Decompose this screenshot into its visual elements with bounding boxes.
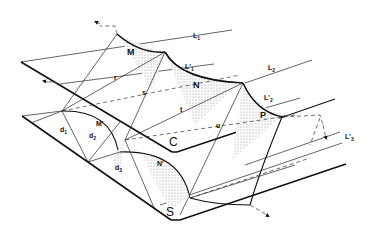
label-L1: L1 (193, 32, 200, 41)
diagram-canvas: M N P M' N' L1 L'1 L2 L'2 L'3 r s t u d1… (0, 0, 378, 239)
shade-P (232, 83, 282, 160)
dash-right (283, 115, 323, 125)
line-right-edge (283, 99, 335, 117)
label-L2: L2 (268, 64, 275, 73)
label-L2-prime: L'2 (264, 94, 273, 103)
line-L2 (245, 60, 312, 83)
label-u: u (216, 122, 220, 129)
label-C: C (169, 135, 178, 149)
curve-M-prime (62, 111, 118, 150)
shade-M (117, 34, 165, 90)
label-N: N (193, 80, 200, 90)
label-r: r (114, 74, 117, 81)
label-P: P (260, 110, 266, 120)
arrow-right (323, 125, 326, 138)
arrow-top-left (96, 22, 100, 24)
label-d1: d1 (60, 126, 67, 135)
label-s: s (142, 89, 146, 96)
label-S: S (166, 205, 174, 219)
label-M-prime: M' (96, 120, 104, 127)
dash-top-left (100, 26, 117, 34)
arrow-bottom (262, 212, 268, 216)
lower-plane (22, 111, 346, 220)
geometric-diagram: M N P M' N' L1 L'1 L2 L'2 L'3 r s t u d1… (0, 0, 378, 239)
arrow-mid-left (44, 81, 48, 82)
label-d2: d2 (89, 132, 96, 141)
label-L3-prime: L'3 (345, 133, 354, 142)
diag-lower (125, 140, 155, 210)
label-d3: d3 (115, 164, 122, 173)
diag-d1-d2 (62, 111, 88, 162)
ray-1 (62, 34, 117, 111)
label-M: M (127, 47, 135, 57)
labels: M N P M' N' L1 L'1 L2 L'2 L'3 r s t u d1… (60, 32, 354, 219)
shade-N (165, 52, 240, 125)
dash-bottom (250, 205, 262, 212)
label-N-prime: N' (157, 160, 164, 167)
